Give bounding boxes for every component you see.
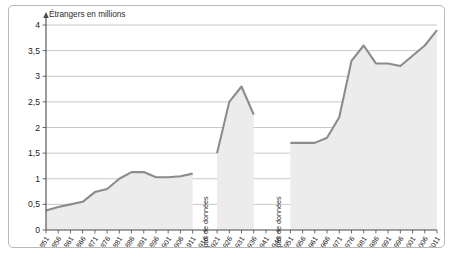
x-tick-label: 2001 xyxy=(403,235,418,247)
x-tick-label: 1961 xyxy=(305,235,320,247)
series-area-segment-2 xyxy=(217,87,254,231)
x-tick-label: 1861 xyxy=(60,235,75,247)
y-tick-label: 0,5 xyxy=(28,199,40,209)
no-data-label: pas de données xyxy=(201,196,210,247)
series-area-segment-3 xyxy=(290,30,437,230)
series-area-segment-1 xyxy=(46,172,193,230)
x-tick-label: 2006 xyxy=(415,235,430,247)
x-tick-label: 1986 xyxy=(366,235,381,247)
x-tick-label: 1966 xyxy=(317,235,332,247)
no-data-label: pas de données xyxy=(274,196,283,247)
y-tick-label: 3,5 xyxy=(28,46,40,56)
y-tick-label: 3 xyxy=(35,71,40,81)
x-axis-ticks: 1851185618611866187118761881188618911896… xyxy=(36,230,442,247)
x-tick-label: 1896 xyxy=(146,235,161,247)
y-tick-label: 1,5 xyxy=(28,148,40,158)
x-tick-label: 1971 xyxy=(329,235,344,247)
x-tick-label: 1981 xyxy=(354,235,369,247)
foreigners-area-chart: Étrangers en millions00,511,522,533,5418… xyxy=(9,6,444,247)
x-tick-label: 1886 xyxy=(121,235,136,247)
x-tick-label: 1876 xyxy=(97,235,112,247)
x-tick-label: 1881 xyxy=(109,235,124,247)
chart-figure: Étrangers en millions00,511,522,533,5418… xyxy=(0,0,453,257)
x-tick-label: 1976 xyxy=(341,235,356,247)
x-tick-label: 1891 xyxy=(134,235,149,247)
x-tick-label: 1991 xyxy=(378,235,393,247)
x-tick-label: 1851 xyxy=(36,235,51,247)
x-tick-label: 1941 xyxy=(256,235,271,247)
y-tick-label: 2 xyxy=(35,123,40,133)
y-tick-label: 2,5 xyxy=(28,97,40,107)
chart-frame: Étrangers en millions00,511,522,533,5418… xyxy=(8,5,445,248)
x-tick-label: 1926 xyxy=(219,235,234,247)
x-tick-label: 1936 xyxy=(244,235,259,247)
y-tick-label: 0 xyxy=(35,225,40,235)
x-tick-label: 1866 xyxy=(73,235,88,247)
y-tick-label: 1 xyxy=(35,174,40,184)
x-tick-label: 1906 xyxy=(170,235,185,247)
series-areas xyxy=(46,30,437,230)
x-tick-label: 2011 xyxy=(427,235,442,247)
x-tick-label: 1931 xyxy=(231,235,246,247)
x-tick-label: 1871 xyxy=(85,235,100,247)
y-tick-label: 4 xyxy=(35,20,40,30)
x-tick-label: 1911 xyxy=(183,235,198,247)
y-axis-ticks: 00,511,522,533,54 xyxy=(28,20,46,235)
x-tick-label: 1996 xyxy=(390,235,405,247)
x-tick-label: 1901 xyxy=(158,235,173,247)
y-axis-title: Étrangers en millions xyxy=(49,9,125,19)
x-tick-label: 1856 xyxy=(48,235,63,247)
x-tick-label: 1956 xyxy=(293,235,308,247)
